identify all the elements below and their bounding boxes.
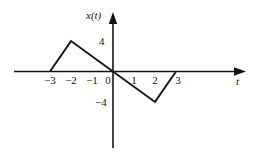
x-tick-label-1: 1 bbox=[131, 75, 137, 86]
x-tick-label-3: 3 bbox=[175, 75, 181, 86]
y-axis-arrowhead-icon bbox=[109, 12, 117, 24]
signal-plot-figure: x(t) t −3 −2 −1 0 1 2 3 4 −4 bbox=[0, 0, 262, 154]
y-tick-label-neg4: −4 bbox=[95, 97, 107, 108]
x-tick-label-neg3: −3 bbox=[44, 75, 56, 86]
x-axis-label: t bbox=[236, 76, 239, 87]
x-tick-label-zero: 0 bbox=[105, 75, 111, 86]
y-tick-label-4: 4 bbox=[99, 36, 105, 47]
x-tick-label-neg2: −2 bbox=[65, 75, 77, 86]
x-tick-label-neg1: −1 bbox=[86, 75, 98, 86]
x-tick-label-2: 2 bbox=[152, 75, 158, 86]
y-axis-label: x(t) bbox=[86, 10, 101, 21]
